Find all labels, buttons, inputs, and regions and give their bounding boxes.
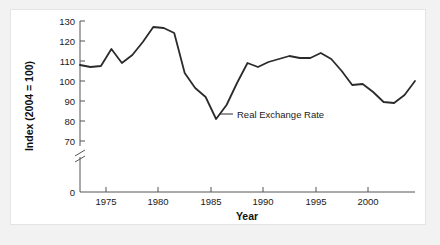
figure-panel: 130 120 110 100 90 80 70 0 1975 (10, 9, 426, 225)
y-tick-label: 100 (59, 76, 75, 87)
y-axis-title: Index (2004 = 100) (23, 61, 35, 151)
chart-page: 130 120 110 100 90 80 70 0 1975 (0, 0, 440, 245)
x-tick-label: 1985 (200, 196, 221, 207)
x-axis-title: Year (236, 210, 258, 222)
x-axis-ticks (106, 187, 368, 192)
x-axis-tick-labels: 1975 1980 1985 1990 1995 2000 (95, 196, 378, 207)
series-annotation-label: Real Exchange Rate (237, 109, 324, 120)
x-tick-label: 1975 (95, 196, 116, 207)
y-axis-ticks (80, 21, 85, 141)
series-line-real-exchange-rate (80, 27, 415, 119)
y-tick-label: 110 (60, 56, 75, 67)
y-tick-label: 120 (59, 36, 75, 47)
x-tick-label: 1995 (305, 196, 326, 207)
y-tick-label: 130 (59, 16, 75, 27)
x-tick-label: 2000 (357, 196, 378, 207)
y-tick-label: 70 (64, 136, 75, 147)
y-axis-tick-labels: 130 120 110 100 90 80 70 0 (59, 16, 75, 198)
x-tick-label: 1990 (252, 196, 273, 207)
line-chart: 130 120 110 100 90 80 70 0 1975 (11, 10, 425, 224)
y-tick-label: 90 (64, 96, 75, 107)
x-tick-label: 1980 (147, 196, 168, 207)
y-tick-label-zero: 0 (70, 187, 75, 198)
y-tick-label: 80 (64, 116, 75, 127)
